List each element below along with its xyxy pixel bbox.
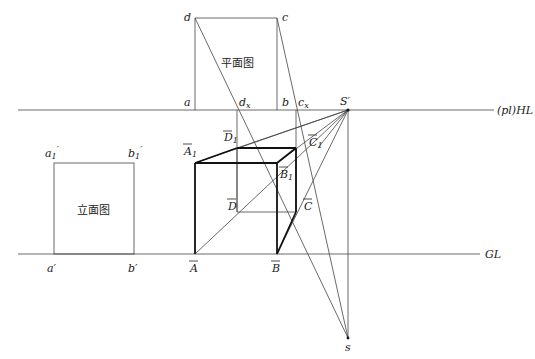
point-a: a: [184, 96, 191, 109]
point-a1-prime: a1′: [45, 145, 59, 161]
point-B1: B1: [279, 168, 293, 182]
elevation-view: 立面图 a1′ b1′ a′ b′: [45, 145, 142, 275]
point-b1-prime: b1′: [128, 145, 142, 161]
horizon-label: (pl)HL: [497, 104, 533, 117]
ray-A-to-S: [195, 110, 348, 254]
point-c: c: [282, 11, 288, 24]
cube-perspective: [195, 148, 296, 254]
point-C: C: [304, 200, 313, 213]
station-point-S-prime: [346, 108, 349, 111]
plan-view: 平面图 d c a b dx cx: [184, 11, 309, 110]
point-A: A: [189, 262, 198, 275]
label-s: s: [345, 341, 351, 354]
perspective-diagram: (pl)HL GL 平面图 d c a b dx cx 立面图 a1′ b1′ …: [0, 0, 535, 359]
point-A1: A1: [183, 145, 197, 159]
station-point-s: [347, 337, 350, 340]
point-cx: cx: [298, 96, 309, 110]
point-D1: D1: [223, 131, 238, 145]
ground-label: GL: [485, 248, 501, 261]
ray-d-to-s: [195, 18, 348, 338]
point-a-prime: a′: [47, 262, 57, 275]
point-b-prime: b′: [128, 262, 138, 275]
plan-view-label: 平面图: [221, 57, 254, 70]
point-dx: dx: [239, 96, 251, 110]
point-B: B: [271, 262, 280, 275]
point-d: d: [184, 11, 191, 24]
point-b: b: [282, 96, 289, 109]
elevation-view-label: 立面图: [77, 203, 110, 217]
point-D: D: [227, 200, 237, 213]
label-S-prime: S′: [340, 95, 351, 108]
point-C1: C1: [309, 136, 323, 150]
cube-labels: A B A1 D1 B1 C1 D C: [183, 131, 323, 275]
